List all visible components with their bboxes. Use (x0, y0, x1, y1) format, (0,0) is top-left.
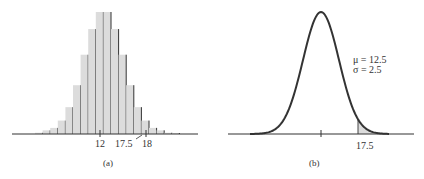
histogram-bar (126, 85, 134, 134)
histogram-bar (58, 121, 66, 134)
histogram-bar (141, 121, 149, 134)
histogram-bar (134, 107, 142, 134)
tick-label-17-5: 17.5 (115, 138, 133, 149)
histogram-bars (35, 12, 179, 134)
histogram-bar (65, 107, 73, 134)
histogram-bar (73, 85, 81, 134)
normal-curve-panel-b: μ = 12.5 σ = 2.5 17.5 (b) (228, 12, 414, 168)
histogram-bar (111, 29, 119, 134)
caption-b: (b) (309, 158, 320, 168)
histogram-bar (81, 55, 89, 134)
histogram-bar (103, 12, 111, 134)
tick-label-17-5-b: 17.5 (356, 140, 374, 151)
caption-a: (a) (103, 158, 113, 168)
tick-label-12: 12 (95, 138, 105, 149)
histogram-bar (149, 128, 157, 134)
histogram-panel-a: 12 17.5 18 (a) (12, 12, 198, 168)
histogram-bar (96, 12, 104, 134)
sigma-label: σ = 2.5 (353, 64, 382, 75)
histogram-bar (50, 128, 58, 134)
tick-label-18: 18 (142, 138, 152, 149)
figure: 12 17.5 18 (a) μ = 12.5 σ = 2.5 17.5 (b) (0, 0, 424, 179)
histogram-bar (119, 55, 127, 134)
histogram-bar (88, 29, 96, 134)
